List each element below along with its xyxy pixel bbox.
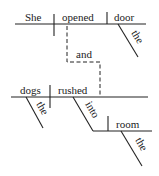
- clause2-verb: rushed: [58, 84, 88, 96]
- preposition: into: [83, 99, 102, 120]
- clause1-verb: opened: [62, 11, 94, 23]
- clause1-object: door: [114, 11, 135, 23]
- clause1-object-modifier: the: [129, 28, 146, 46]
- clause2-subject: dogs: [20, 84, 41, 96]
- prep-object-modifier: the: [133, 135, 150, 153]
- sentence-diagram: She opened door the and dogs rushed the …: [0, 0, 159, 176]
- prep-object: room: [116, 118, 140, 130]
- clause2-subject-modifier: the: [34, 99, 51, 117]
- conjunction: and: [76, 48, 92, 60]
- clause1-subject: She: [25, 11, 42, 23]
